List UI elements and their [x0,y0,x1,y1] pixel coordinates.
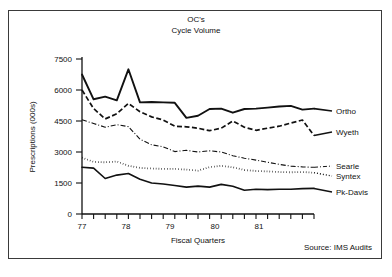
x-tick-label-80: 80 [211,222,220,231]
x-axis-label: Fiscal Quarters [171,236,225,245]
chart-title-line1: OC's [187,15,205,24]
chart-title-line2: Cycle Volume [172,26,221,35]
y-tick-label-7500: 7500 [54,55,72,64]
y-tick-label-0: 0 [68,210,73,219]
x-tick-label-77: 77 [78,222,87,231]
y-tick-label-6000: 6000 [54,86,72,95]
legend-leaders [314,109,332,192]
legend-label-syntex: Syntex [336,172,360,181]
y-tick-label-4500: 4500 [54,117,72,126]
chart-figure: OC's Cycle Volume Prescriptions (000s) 7… [0,0,392,277]
x-tick-label-79: 79 [166,222,175,231]
y-tick-label-3000: 3000 [54,148,72,157]
legend-label-pkdavis: Pk-Davis [336,188,368,197]
y-axis-label: Prescriptions (000s) [28,101,37,172]
series-line-syntex [82,158,314,173]
x-axis-ticks [82,214,314,219]
series-lines [82,69,314,190]
legend-label-searle: Searle [336,162,360,171]
x-tick-label-78: 78 [122,222,131,231]
x-tick-label-81: 81 [255,222,264,231]
legend-label-ortho: Ortho [336,107,357,116]
legend-label-wyeth: Wyeth [336,128,359,137]
y-axis-ticks [76,59,82,214]
series-line-wyeth [82,90,314,136]
source-note: Source: IMS Audits [304,243,372,252]
series-line-ortho [82,69,314,118]
chart-svg: OC's Cycle Volume Prescriptions (000s) 7… [0,0,392,277]
y-tick-label-1500: 1500 [54,179,72,188]
